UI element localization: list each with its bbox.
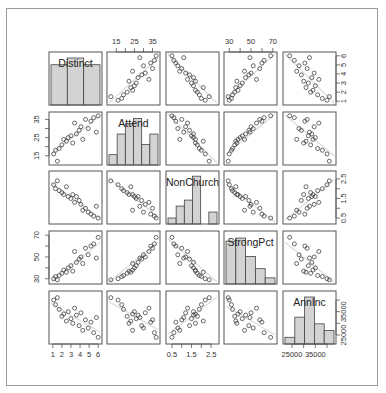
histogram-bar: [84, 65, 100, 105]
data-point: [317, 200, 321, 204]
data-point: [186, 306, 190, 310]
data-point: [55, 159, 59, 163]
tick-label: 15: [112, 37, 120, 46]
data-point: [174, 320, 178, 324]
variable-label: NonChurch: [166, 176, 219, 188]
tick-label: 2: [60, 350, 64, 359]
data-point: [312, 202, 316, 206]
data-point: [73, 121, 77, 125]
tick-label: 2.5: [206, 350, 216, 359]
tick-label: 50: [247, 37, 255, 46]
x-axis-strongpct: 305070: [225, 37, 277, 52]
data-point: [288, 114, 292, 118]
data-point: [143, 71, 147, 75]
data-point: [73, 250, 77, 254]
data-point: [308, 256, 312, 260]
tick-label: 35000: [339, 301, 348, 322]
tick-label: 6: [96, 350, 100, 359]
data-point: [152, 331, 156, 335]
data-point: [199, 303, 203, 307]
data-point: [234, 86, 238, 90]
data-point: [254, 77, 258, 81]
data-point: [154, 235, 158, 239]
data-point: [262, 331, 266, 335]
data-point: [320, 96, 324, 100]
data-point: [269, 335, 273, 339]
scatter-panel-nonchurch-vs-strongpct: [224, 171, 277, 224]
tick-label: 50: [32, 253, 41, 261]
data-point: [310, 76, 314, 80]
tick-label: 70: [269, 37, 277, 46]
data-point: [180, 117, 184, 121]
data-point: [306, 264, 310, 268]
data-point: [295, 69, 299, 73]
data-point: [288, 235, 292, 239]
data-point: [81, 261, 85, 265]
data-point: [262, 116, 266, 120]
data-point: [64, 270, 68, 274]
data-point: [136, 260, 140, 264]
data-point: [116, 298, 120, 302]
data-point: [292, 242, 296, 246]
variable-label: AnnInc: [293, 296, 326, 308]
scatter-panel-strongpct-vs-attend: [107, 231, 160, 284]
scatter-panel-anninc-vs-distinct: [49, 291, 102, 344]
data-point: [81, 328, 85, 332]
histogram-panel-distinct: Distinct: [49, 52, 102, 105]
data-point: [120, 303, 124, 307]
fit-line: [168, 297, 217, 334]
data-point: [79, 311, 83, 315]
data-point: [89, 244, 93, 248]
x-axis-nonchurch: 0.51.52.5: [167, 344, 217, 359]
data-point: [92, 331, 96, 335]
histogram-bar: [324, 331, 334, 344]
data-point: [236, 88, 240, 92]
data-point: [186, 77, 190, 81]
data-point: [74, 313, 78, 317]
data-point: [207, 296, 211, 300]
data-point: [186, 250, 190, 254]
tick-label: 35000: [305, 350, 326, 359]
data-point: [81, 137, 85, 141]
tick-label: 15: [32, 152, 41, 160]
tick-label: 5: [339, 63, 348, 67]
data-point: [143, 311, 147, 315]
data-point: [288, 54, 292, 58]
data-point: [299, 257, 303, 261]
data-point: [235, 79, 239, 83]
data-point: [170, 235, 174, 239]
tick-label: 6: [339, 54, 348, 58]
histogram-bar: [314, 324, 324, 344]
data-point: [83, 246, 87, 250]
data-point: [86, 253, 90, 257]
tick-label: 1.5: [186, 350, 196, 359]
data-point: [207, 159, 211, 163]
data-point: [254, 306, 258, 310]
tick-label: 1.5: [339, 193, 348, 203]
data-point: [140, 198, 144, 202]
tick-label: 2.5: [339, 174, 348, 184]
data-point: [176, 127, 180, 131]
data-point: [226, 179, 230, 183]
tick-label: 0.5: [167, 350, 177, 359]
scatter-panel-anninc-vs-attend: [107, 291, 160, 344]
data-point: [254, 200, 258, 204]
data-point: [154, 335, 158, 339]
data-point: [92, 116, 96, 120]
y-axis-distinct: 123456: [336, 54, 348, 104]
data-point: [327, 159, 331, 163]
scatter-panel-attend-vs-anninc: [283, 112, 336, 165]
data-point: [122, 93, 126, 97]
data-point: [305, 67, 309, 71]
data-point: [243, 69, 247, 73]
histogram-bar: [51, 65, 67, 105]
tick-label: 35: [32, 115, 41, 123]
y-axis-nonchurch: 0.51.52.5: [336, 174, 348, 224]
data-point: [94, 316, 98, 320]
data-point: [320, 148, 324, 152]
data-point: [295, 137, 299, 141]
data-point: [309, 143, 313, 147]
data-point: [71, 141, 75, 145]
data-point: [147, 306, 151, 310]
tick-label: 1: [339, 99, 348, 103]
